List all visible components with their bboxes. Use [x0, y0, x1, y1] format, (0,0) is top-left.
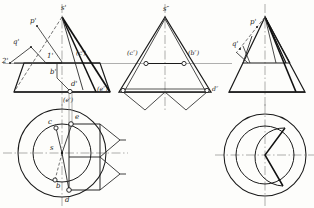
wedge-cutout-top-right — [265, 128, 285, 186]
point-marker-e-prime — [68, 89, 72, 93]
point-marker-p-dprime-side — [256, 26, 258, 28]
point-marker-e-top — [69, 122, 74, 127]
radial-line-to-c — [56, 128, 62, 153]
drawing-canvas: s' p' q' 2' 1' b' d' (c') (e') s″ (c″) — [0, 0, 314, 208]
point-marker-p-prime — [36, 25, 38, 27]
label-d-prime: d' — [71, 80, 77, 88]
label-c-dprime: (c″) — [127, 49, 138, 56]
front-view-middle — [119, 4, 211, 110]
label-b-top: b — [56, 182, 61, 190]
point-marker-c-dprime — [144, 61, 148, 65]
point-marker-two-prime — [9, 62, 11, 64]
front-view-left — [9, 4, 110, 106]
point-marker-q-dprime-side — [239, 48, 241, 50]
label-b-prime: b' — [50, 68, 56, 76]
label-q-prime: q' — [13, 38, 19, 46]
auxiliary-triangle-q — [10, 47, 46, 63]
generatrix-heavy-inner-side — [265, 17, 286, 63]
cone-triangle-outline-right — [229, 17, 305, 92]
label-c-top: c — [48, 118, 52, 126]
lower-vee-left-mid — [123, 92, 165, 110]
wedge-arc-top-right — [255, 128, 285, 186]
label-e-dprime: (e″) — [97, 85, 108, 92]
label-p-dprime: p' — [250, 18, 256, 26]
wing-upper-top-left — [100, 124, 120, 157]
point-marker-d-dprime — [205, 88, 209, 92]
link-b-to-e — [57, 78, 70, 91]
radial-line-to-b-hidden — [55, 153, 62, 180]
label-two-prime: 2' — [1, 57, 8, 65]
label-s-prime: s' — [61, 4, 67, 12]
inner-generatrix-right-mid — [165, 19, 206, 92]
label-p-prime: p' — [30, 17, 36, 25]
label-s-dprime: s″ — [163, 5, 170, 13]
radial-line-to-e — [62, 124, 72, 153]
label-one-prime: 1' — [47, 52, 53, 60]
front-view-left-labels: s' p' q' 2' 1' b' d' (c') (e') — [1, 4, 87, 103]
lower-vee-right-mid — [165, 92, 207, 110]
label-b-dprime: (b″) — [188, 49, 200, 56]
label-s-top: s — [50, 144, 54, 152]
technical-drawing-sheet: s' p' q' 2' 1' b' d' (c') (e') s″ (c″) — [0, 0, 314, 208]
point-marker-q-prime — [30, 46, 32, 48]
generatrix-right-heavy — [62, 17, 110, 92]
point-marker-d-top — [67, 188, 72, 193]
label-q-dprime: q' — [232, 40, 238, 48]
point-marker-c-top — [54, 126, 58, 130]
side-view-right — [229, 4, 305, 106]
top-view-left — [3, 93, 128, 206]
top-view-right — [215, 104, 314, 206]
point-marker-s-top — [61, 152, 63, 154]
label-c-prime: (c') — [76, 49, 87, 56]
wing-lower-top-left — [100, 157, 120, 190]
label-d-top: d — [65, 196, 70, 204]
radial-line-to-d — [62, 153, 69, 190]
label-e-top: e — [75, 113, 79, 121]
point-marker-e-dprime — [121, 88, 125, 92]
label-d-dprime: d″ — [212, 85, 219, 92]
point-marker-b-dprime — [182, 61, 186, 65]
front-view-middle-labels: s″ (c″) (b″) (e″) d″ — [97, 5, 219, 92]
